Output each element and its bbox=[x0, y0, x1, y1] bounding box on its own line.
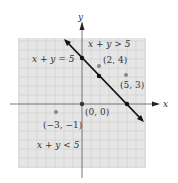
x-axis-label: x bbox=[163, 99, 168, 109]
inequality-graph: x y x + y = 5 x + y > 5 x + y < 5 (2, 4)… bbox=[0, 0, 178, 183]
line-point-2-3 bbox=[97, 74, 101, 78]
test-point-label-5-3: (5, 3) bbox=[120, 80, 144, 90]
region-below-label: x + y < 5 bbox=[37, 140, 80, 150]
y-axis-arrow-icon bbox=[80, 22, 85, 30]
line-point-5-0 bbox=[125, 102, 129, 106]
line-point-0-5 bbox=[80, 56, 84, 60]
test-point-label-0-0: (0, 0) bbox=[85, 107, 109, 117]
x-axis-arrow-icon bbox=[152, 102, 160, 107]
test-point-0-0 bbox=[80, 102, 84, 106]
test-point-label-neg3-neg1: (−3, −1) bbox=[43, 120, 82, 130]
test-point-5-3 bbox=[124, 73, 128, 77]
test-point-neg3-neg1 bbox=[54, 110, 58, 114]
boundary-equation-label: x + y = 5 bbox=[32, 54, 75, 64]
test-point-2-4 bbox=[97, 64, 101, 68]
region-above-label: x + y > 5 bbox=[88, 39, 131, 49]
test-point-label-2-4: (2, 4) bbox=[103, 55, 127, 65]
y-axis-label: y bbox=[77, 12, 84, 22]
